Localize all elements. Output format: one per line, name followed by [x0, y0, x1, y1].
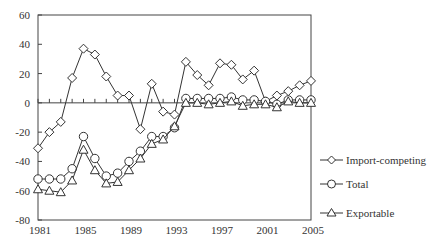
diamond-marker — [250, 66, 259, 75]
y-tick-label: 0 — [25, 97, 31, 109]
y-tick-label: -60 — [15, 185, 30, 197]
y-tick-label: 40 — [19, 38, 31, 50]
circle-marker — [79, 132, 87, 140]
legend-label: Total — [346, 178, 368, 190]
x-tick-label: 1981 — [29, 224, 51, 236]
triangle-marker-icon — [327, 209, 336, 217]
circle-marker — [125, 157, 133, 165]
y-tick-label: 60 — [19, 9, 31, 21]
triangle-marker — [68, 176, 77, 184]
diamond-marker — [147, 79, 156, 88]
diamond-marker — [102, 72, 111, 81]
y-tick-label: -40 — [15, 155, 30, 167]
triangle-marker — [90, 166, 99, 174]
x-tick-label: 1985 — [75, 224, 98, 236]
y-tick-label: 20 — [19, 68, 31, 80]
diamond-marker — [227, 60, 236, 69]
diamond-marker — [216, 59, 225, 68]
y-tick-label: -20 — [15, 126, 30, 138]
diamond-marker — [170, 110, 179, 119]
legend-label: Import-competing — [346, 154, 427, 166]
series-line — [38, 97, 311, 179]
diamond-marker — [295, 81, 304, 90]
series-layer — [34, 44, 316, 196]
circle-marker — [91, 154, 99, 162]
circle-marker — [45, 175, 53, 183]
x-tick-label: 2001 — [257, 224, 279, 236]
diamond-marker — [34, 144, 43, 153]
circle-marker — [34, 175, 42, 183]
legend-item-import-competing: Import-competing — [320, 154, 427, 166]
series-import-competing — [34, 44, 316, 153]
diamond-marker — [136, 125, 145, 134]
circle-marker — [113, 169, 121, 177]
x-tick-label: 2005 — [302, 224, 325, 236]
circle-marker — [57, 175, 65, 183]
diamond-marker — [68, 73, 77, 82]
circle-marker-icon — [328, 180, 336, 188]
diamond-marker — [113, 91, 122, 100]
triangle-marker — [34, 185, 43, 193]
diamond-marker — [79, 44, 88, 53]
diamond-marker-icon — [328, 156, 336, 164]
x-tick-label: 1993 — [166, 224, 189, 236]
diamond-marker — [307, 76, 316, 85]
legend: Import-competing Total Exportable — [320, 154, 427, 219]
diamond-marker — [125, 91, 134, 100]
diamond-marker — [90, 50, 99, 59]
diamond-marker — [238, 75, 247, 84]
legend-item-total: Total — [320, 178, 368, 190]
legend-item-exportable: Exportable — [320, 207, 394, 219]
diamond-marker — [159, 107, 168, 116]
x-tick-label: 1997 — [211, 224, 234, 236]
x-axis: 1981198519891993199720012005 — [29, 224, 325, 236]
line-chart: -80-60-40-200204060 19811985198919931997… — [0, 0, 436, 244]
diamond-marker — [272, 91, 281, 100]
diamond-marker — [284, 87, 293, 96]
x-tick-label: 1989 — [120, 224, 143, 236]
series-line — [38, 49, 311, 149]
legend-label: Exportable — [346, 207, 394, 219]
